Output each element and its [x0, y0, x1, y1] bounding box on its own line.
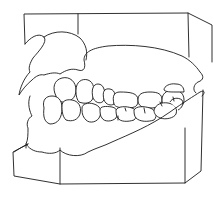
dental-casts-illustration	[0, 0, 213, 200]
upper-cast-base	[24, 13, 212, 62]
